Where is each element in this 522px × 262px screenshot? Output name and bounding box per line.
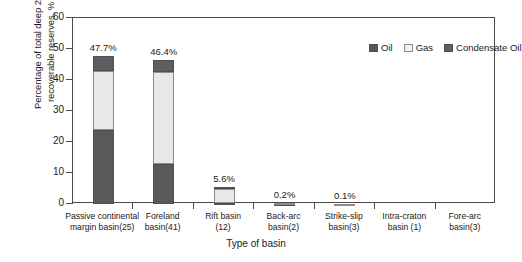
y-axis-tick-label-text: 10 bbox=[42, 167, 64, 177]
bar-segment-gas bbox=[214, 189, 235, 203]
x-axis-tick bbox=[435, 203, 436, 209]
bar-segment-gas bbox=[334, 204, 355, 206]
bar-segment-condensate-oil bbox=[93, 56, 114, 71]
y-axis-tick-label-text: 60 bbox=[42, 12, 64, 22]
x-axis-tick bbox=[132, 203, 133, 209]
y-axis-tick-label-text: 40 bbox=[42, 74, 64, 84]
bar-total-label: 0.2% bbox=[258, 190, 312, 200]
x-axis-tick bbox=[374, 203, 375, 209]
bar-segment-oil bbox=[153, 164, 174, 204]
plot-area: 47.7%46.4%5.6%0.2%0.1% Oil Gas Condensat… bbox=[72, 17, 495, 203]
bar-total-label: 0.1% bbox=[318, 191, 372, 201]
legend-label-oil: Oil bbox=[381, 43, 393, 53]
x-axis-title: Type of basin bbox=[0, 238, 512, 250]
legend-item-gas: Gas bbox=[404, 43, 433, 53]
legend-label-gas: Gas bbox=[416, 43, 433, 53]
x-axis-category-label: Fore-arcbasin(3) bbox=[417, 211, 513, 233]
y-axis-tick-label-text: 0 bbox=[42, 198, 64, 208]
bar-stack bbox=[274, 18, 295, 204]
y-axis-tick-label: 60 bbox=[38, 12, 64, 22]
bar-total-label: 5.6% bbox=[197, 174, 251, 184]
bar-total-label: 46.4% bbox=[137, 47, 191, 57]
y-axis-tick-label: 20 bbox=[38, 136, 64, 146]
y-axis-tick-label: 0 bbox=[38, 198, 64, 208]
bar-total-label: 47.7% bbox=[76, 43, 130, 53]
chart-legend: Oil Gas Condensate Oil bbox=[369, 41, 522, 55]
bar-segment-gas bbox=[93, 71, 114, 130]
y-axis-tick-label: 30 bbox=[38, 105, 64, 115]
x-axis-category-label-line: Fore-arc bbox=[417, 211, 513, 222]
bar-segment-condensate-oil bbox=[214, 187, 235, 189]
legend-swatch-condensate-oil-icon bbox=[444, 44, 453, 52]
bar-segment-gas bbox=[274, 203, 295, 205]
y-axis-tick-label-text: 30 bbox=[42, 105, 64, 115]
bar-segment-oil bbox=[93, 130, 114, 204]
bar-stack bbox=[334, 18, 355, 204]
x-axis-tick bbox=[193, 203, 194, 209]
x-axis-tick bbox=[253, 203, 254, 209]
legend-item-oil: Oil bbox=[369, 43, 393, 53]
y-axis-tick bbox=[66, 203, 73, 204]
y-axis-tick-label: 40 bbox=[38, 74, 64, 84]
bar-segment-oil bbox=[214, 203, 235, 205]
legend-label-condensate-oil: Condensate Oil bbox=[456, 43, 521, 53]
x-axis-tick bbox=[314, 203, 315, 209]
bar-segment-condensate-oil bbox=[153, 60, 174, 72]
legend-item-condensate-oil: Condensate Oil bbox=[444, 43, 521, 53]
x-axis-category-label-line: basin(3) bbox=[417, 222, 513, 233]
bar-segment-gas bbox=[153, 72, 174, 163]
legend-swatch-gas-icon bbox=[404, 44, 413, 52]
y-axis-tick-label-text: 50 bbox=[42, 43, 64, 53]
y-axis-tick-label-text: 20 bbox=[42, 136, 64, 146]
legend-swatch-oil-icon bbox=[369, 44, 378, 52]
y-axis-tick-label: 10 bbox=[38, 167, 64, 177]
y-axis-tick-label: 50 bbox=[38, 43, 64, 53]
